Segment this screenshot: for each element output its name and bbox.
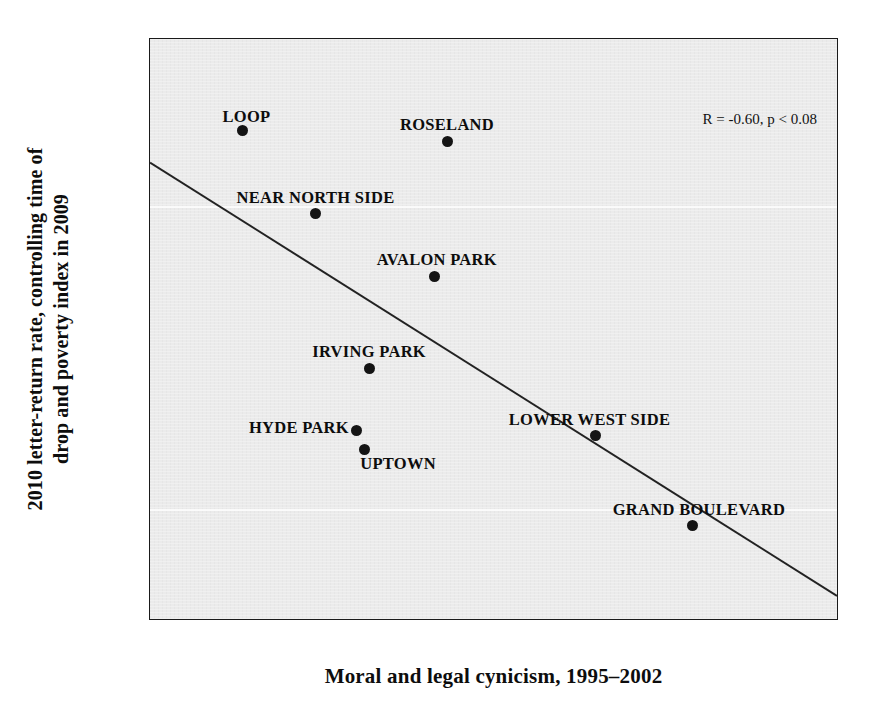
scatter-plot-figure: LOOPROSELANDNEAR NORTH SIDEAVALON PARKIR… (0, 0, 879, 724)
data-point-label: HYDE PARK (249, 420, 349, 437)
y-tick-mark (149, 590, 150, 591)
data-point (364, 363, 375, 374)
x-tick-mark (559, 619, 560, 620)
x-tick-mark (194, 619, 195, 620)
y-tick-mark (149, 503, 150, 504)
y-tick-mark (149, 157, 150, 158)
y-axis-title: 2010 letter-return rate, controlling tim… (22, 38, 78, 620)
correlation-annotation: R = -0.60, p < 0.08 (703, 111, 817, 128)
data-point-label: NEAR NORTH SIDE (237, 189, 395, 206)
y-tick-mark (149, 70, 150, 71)
data-point (351, 425, 362, 436)
y-axis-title-line1: 2010 letter-return rate, controlling tim… (22, 38, 48, 620)
data-point-label: IRVING PARK (312, 344, 426, 361)
x-tick-mark (681, 619, 682, 620)
x-tick-mark (316, 619, 317, 620)
data-point (687, 520, 698, 531)
data-point (590, 430, 601, 441)
x-tick-mark (437, 619, 438, 620)
data-point (429, 271, 440, 282)
y-tick-mark (149, 243, 150, 244)
data-point (237, 125, 248, 136)
x-axis-title: Moral and legal cynicism, 1995–2002 (149, 664, 838, 689)
data-point (310, 208, 321, 219)
y-axis-title-line2: drop and poverty index in 2009 (48, 38, 74, 620)
data-point-label: ROSELAND (400, 117, 494, 134)
data-point-label: LOOP (223, 108, 271, 125)
data-point-label: GRAND BOULEVARD (613, 501, 785, 518)
data-point-label: UPTOWN (360, 456, 436, 473)
plot-area: LOOPROSELANDNEAR NORTH SIDEAVALON PARKIR… (149, 38, 838, 620)
x-tick-mark (802, 619, 803, 620)
data-point-label: LOWER WEST SIDE (509, 411, 671, 428)
y-tick-mark (149, 330, 150, 331)
y-tick-mark (149, 417, 150, 418)
data-point-label: AVALON PARK (377, 252, 497, 269)
data-point (442, 136, 453, 147)
